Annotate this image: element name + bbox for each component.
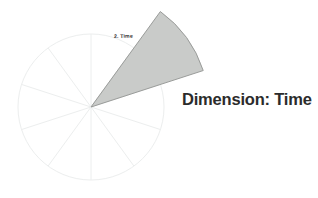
wheel-svg	[0, 0, 190, 198]
wheel-spoke-5	[91, 107, 134, 166]
wheel-spoke-4	[91, 107, 160, 130]
page-title: Dimension: Time	[182, 89, 316, 109]
dimension-wheel-figure: 2. Time Dimension: Time	[0, 0, 318, 198]
wheel-spoke-9	[22, 84, 91, 107]
slice-label-time: 2. Time	[114, 33, 133, 39]
wheel-spoke-10	[48, 48, 91, 107]
wheel-spoke-8	[22, 107, 91, 130]
wheel-spoke-7	[48, 107, 91, 166]
wheel-diagram: 2. Time	[0, 0, 190, 198]
